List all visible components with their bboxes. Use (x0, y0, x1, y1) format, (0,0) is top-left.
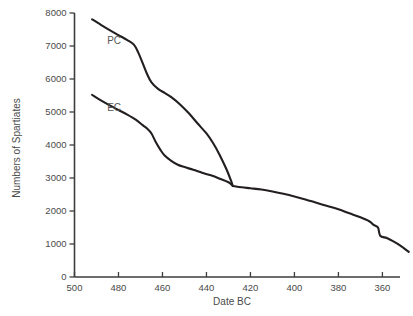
y-tick-label: 6000 (45, 73, 66, 84)
x-tick-label: 440 (199, 282, 215, 293)
chart-container: 010002000300040005000600070008000 500480… (0, 0, 413, 316)
y-tick-label: 8000 (45, 7, 66, 18)
y-axis-ticks: 010002000300040005000600070008000 (45, 7, 74, 282)
x-axis-ticks: 500480460440420400380360 (67, 272, 391, 293)
x-tick-label: 480 (111, 282, 127, 293)
y-tick-label: 5000 (45, 106, 66, 117)
x-tick-label: 500 (67, 282, 83, 293)
y-tick-label: 1000 (45, 238, 66, 249)
x-tick-label: 420 (243, 282, 259, 293)
x-tick-label: 360 (374, 282, 390, 293)
axes-group (75, 13, 401, 277)
y-tick-label: 0 (61, 271, 66, 282)
y-tick-label: 3000 (45, 172, 66, 183)
y-tick-label: 4000 (45, 139, 66, 150)
data-series-group (92, 19, 409, 252)
x-axis-title: Date BC (213, 296, 251, 307)
series-inline-labels: PCEC (107, 35, 121, 113)
series-label-pc: PC (107, 35, 121, 46)
spartiates-line-chart: 010002000300040005000600070008000 500480… (0, 0, 413, 316)
x-tick-label: 380 (330, 282, 346, 293)
y-tick-label: 7000 (45, 40, 66, 51)
x-tick-label: 400 (287, 282, 303, 293)
y-tick-label: 2000 (45, 205, 66, 216)
series-label-ec: EC (107, 102, 121, 113)
series-line-combined (233, 186, 409, 252)
x-tick-label: 460 (155, 282, 171, 293)
y-axis-title: Numbers of Spartiates (11, 98, 22, 198)
